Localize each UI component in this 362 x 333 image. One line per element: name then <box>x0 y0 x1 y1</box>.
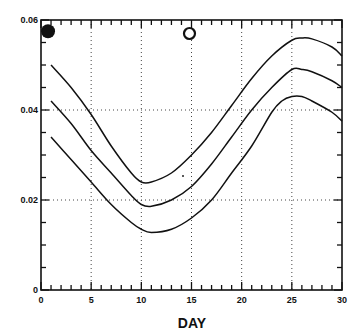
speck-dot <box>182 175 184 177</box>
x-tick-label: 15 <box>186 295 196 305</box>
line-chart: 05101520253000.020.040.06 DAY <box>0 0 362 333</box>
x-tick-label: 0 <box>38 295 43 305</box>
y-tick-label: 0.06 <box>20 15 38 25</box>
data-series <box>51 38 342 233</box>
markers <box>41 24 195 39</box>
y-tick-label: 0 <box>33 285 38 295</box>
filled-circle-marker <box>41 24 55 38</box>
y-tick-label: 0.04 <box>20 105 38 115</box>
y-tick-label: 0.02 <box>20 195 38 205</box>
x-axis-title: DAY <box>178 315 207 331</box>
x-tick-label: 25 <box>287 295 297 305</box>
open-circle-marker <box>184 28 195 39</box>
x-tick-label: 10 <box>136 295 146 305</box>
curve-lower <box>51 96 342 232</box>
tick-labels: 05101520253000.020.040.06 <box>20 15 347 305</box>
x-tick-label: 5 <box>89 295 94 305</box>
x-tick-label: 30 <box>337 295 347 305</box>
curve-upper <box>51 38 342 183</box>
x-tick-label: 20 <box>237 295 247 305</box>
